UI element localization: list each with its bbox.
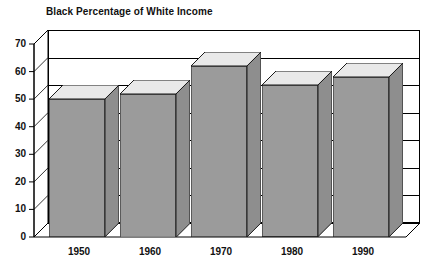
y-tick-label-30: 30 <box>0 149 26 159</box>
bar-front-face <box>191 66 247 237</box>
y-tick-label-60: 60 <box>0 67 26 77</box>
y-tick-label-40: 40 <box>0 122 26 132</box>
y-tick-label-70: 70 <box>0 39 26 49</box>
x-tick-label-1950: 1950 <box>49 246 109 257</box>
x-tick-label-1970: 1970 <box>191 246 251 257</box>
bar-front-face <box>333 77 389 237</box>
x-tick-label-1960: 1960 <box>120 246 180 257</box>
bar-side-face <box>389 63 403 237</box>
bar-side-face <box>318 71 332 237</box>
y-tick-label-0: 0 <box>0 232 26 242</box>
gridline-70 <box>48 30 420 31</box>
bar-1990 <box>333 63 403 237</box>
y-tick-label-50: 50 <box>0 94 26 104</box>
y-tick-label-10: 10 <box>0 204 26 214</box>
bar-side-face <box>105 85 119 237</box>
bar-1980 <box>262 71 332 237</box>
bar-1950 <box>49 85 119 237</box>
bar-side-face <box>247 52 261 237</box>
bar-front-face <box>262 85 318 237</box>
bar-1970 <box>191 52 261 237</box>
chart-container: Black Percentage of White Income <box>0 0 435 271</box>
bar-side-face <box>176 80 190 237</box>
bar-front-face <box>49 99 105 237</box>
bar-1960 <box>120 80 190 237</box>
y-tick-label-20: 20 <box>0 177 26 187</box>
plot-area: 70 60 50 40 30 20 10 0 1950 1960 1970 19… <box>0 0 435 271</box>
bar-front-face <box>120 94 176 237</box>
x-tick-label-1990: 1990 <box>333 246 393 257</box>
x-tick-label-1980: 1980 <box>262 246 322 257</box>
